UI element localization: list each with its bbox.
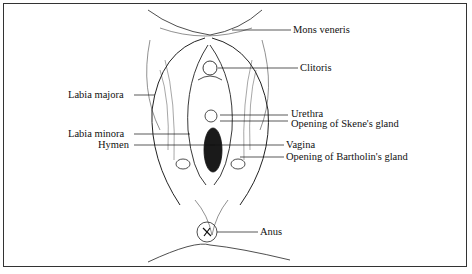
label-vagina: Vagina [286, 139, 315, 151]
label-skene-gland: Opening of Skene's gland [291, 118, 399, 130]
label-anus: Anus [260, 226, 282, 238]
label-clitoris: Clitoris [300, 62, 332, 74]
label-labia-majora: Labia majora [68, 89, 124, 101]
label-bartholin-gland: Opening of Bartholin's gland [286, 151, 408, 163]
label-hymen: Hymen [98, 139, 129, 151]
label-mons-veneris: Mons veneris [293, 24, 350, 36]
